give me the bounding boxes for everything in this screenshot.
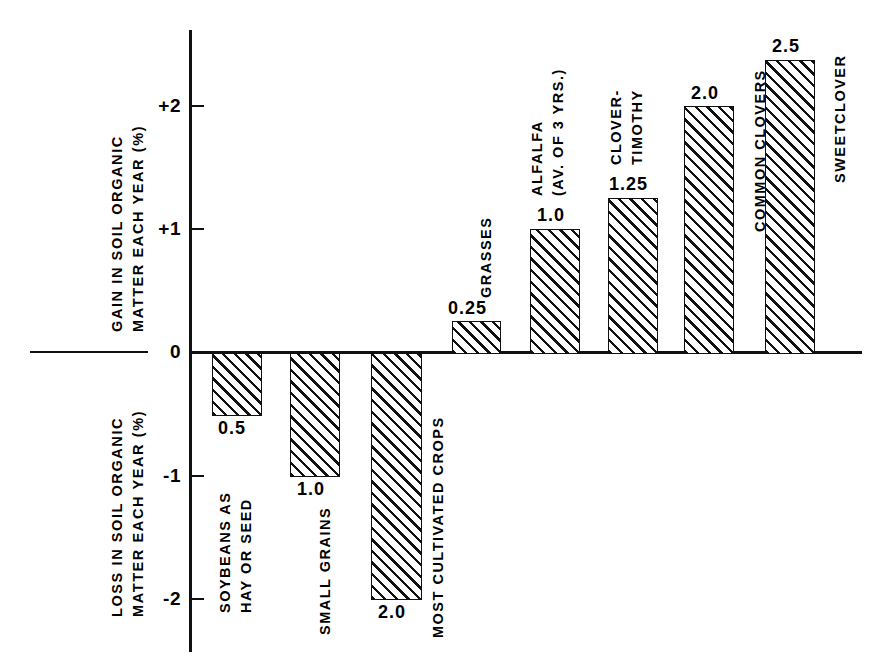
bar-label-sweetclover: SWEETCLOVER (831, 55, 849, 183)
zero-baseline-left-extension (30, 351, 148, 353)
y-tick-label-plus2: +2 (137, 95, 181, 117)
y-axis-line (189, 30, 192, 652)
bar-alfalfa (530, 229, 580, 354)
bar-label-clover-timothy-line2: TIMOTHY (628, 89, 646, 165)
bar-value-alfalfa: 1.0 (537, 205, 565, 226)
loss-axis-title-line1: LOSS IN SOIL ORGANIC (108, 417, 127, 617)
bar-value-most-cultivated-crops: 2.0 (378, 602, 406, 623)
y-tick-minus1 (192, 475, 204, 477)
bar-label-alfalfa-line2: (AV. OF 3 YRS.) (549, 68, 567, 196)
bar-value-soybeans: 0.5 (218, 418, 246, 439)
loss-axis-title-line2: MATTER EACH YEAR (%) (129, 410, 148, 617)
bar-label-most-cultivated-crops: MOST CULTIVATED CROPS (429, 416, 447, 638)
bar-label-alfalfa-line1: ALFALFA (528, 120, 546, 196)
bar-label-clover-timothy-line1: CLOVER- (607, 89, 625, 165)
y-tick-plus1 (192, 228, 204, 230)
bar-chart: +2 +1 0 -1 -2 GAIN IN SOIL ORGANIC MATTE… (0, 0, 884, 667)
bar-clover-timothy (608, 198, 658, 354)
gain-axis-title-line1: GAIN IN SOIL ORGANIC (108, 135, 127, 332)
bar-common-clovers (684, 106, 734, 354)
bar-value-sweetclover: 2.5 (772, 36, 800, 57)
bar-label-soybeans-line1: SOYBEANS AS (216, 491, 234, 613)
bar-value-grasses: 0.25 (448, 298, 487, 319)
bar-grasses (452, 321, 501, 354)
bar-sweetclover (765, 60, 815, 354)
bar-value-small-grains: 1.0 (297, 479, 325, 500)
bar-soybeans (212, 353, 262, 416)
bar-label-small-grains: SMALL GRAINS (316, 507, 334, 635)
bar-value-clover-timothy: 1.25 (609, 174, 648, 195)
bar-small-grains (290, 353, 340, 477)
y-tick-plus2 (192, 105, 204, 107)
bar-value-common-clovers: 2.0 (691, 83, 719, 104)
gain-axis-title-line2: MATTER EACH YEAR (%) (129, 125, 148, 332)
bar-most-cultivated-crops (371, 353, 422, 600)
y-tick-minus2 (192, 598, 204, 600)
y-tick-label-zero: 0 (137, 341, 181, 363)
bar-label-soybeans-line2: HAY OR SEED (237, 498, 255, 613)
bar-label-grasses: GRASSES (477, 217, 495, 298)
